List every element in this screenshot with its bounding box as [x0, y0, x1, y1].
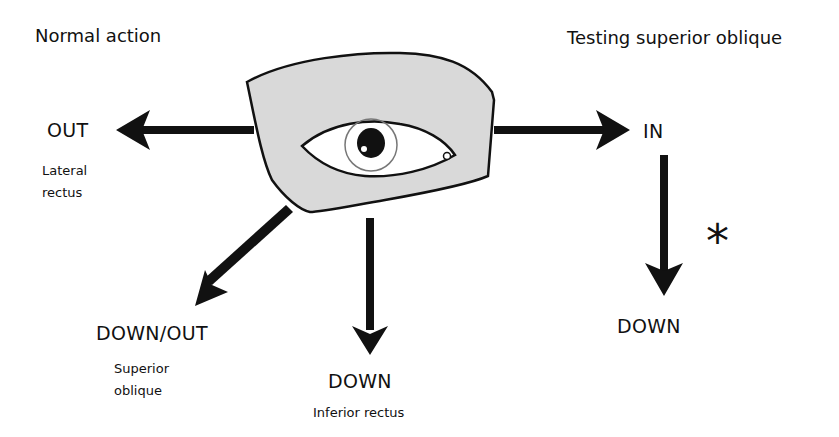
arrow-right-icon: [494, 110, 630, 150]
muscle-inferior-rectus: Inferior rectus: [313, 402, 404, 424]
muscle-line-2: rectus: [42, 182, 87, 204]
label-out: OUT: [47, 119, 88, 141]
arrow-down-left-icon: [195, 205, 293, 306]
arrow-left-icon: [116, 110, 254, 150]
asterisk-marker: *: [706, 218, 729, 264]
caruncle: [444, 153, 451, 160]
muscle-line-1: Superior: [114, 358, 169, 380]
muscle-line-1: Lateral: [42, 160, 87, 182]
arrow-down-icon: [352, 218, 388, 355]
pupil-icon: [357, 128, 385, 158]
arrow-down-test-icon: [645, 155, 683, 296]
heading-normal-action: Normal action: [35, 25, 161, 46]
muscle-lateral-rectus: Lateral rectus: [42, 160, 87, 204]
pupil-highlight: [361, 146, 367, 152]
label-down-out: DOWN/OUT: [96, 322, 208, 344]
label-in: IN: [643, 120, 663, 142]
muscle-superior-oblique: Superior oblique: [114, 358, 169, 402]
label-test-down: DOWN: [617, 315, 681, 337]
heading-testing-superior-oblique: Testing superior oblique: [567, 27, 782, 48]
label-down: DOWN: [328, 370, 392, 392]
muscle-line-2: oblique: [114, 380, 169, 402]
